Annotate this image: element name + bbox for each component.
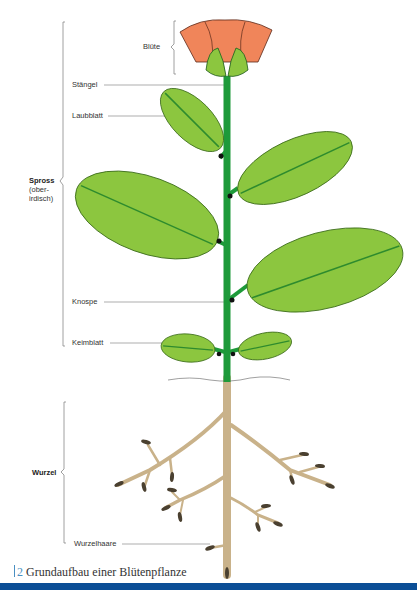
figure-title: Grundaufbau einer Blütenpflanze xyxy=(26,565,187,579)
caption-accent-bar xyxy=(14,565,15,577)
label-wurzel: Wurzel xyxy=(32,468,56,477)
leaf-lower-right xyxy=(238,213,412,328)
wurzel-bracket xyxy=(61,402,66,543)
flower xyxy=(180,20,272,77)
leaf-top-left xyxy=(150,78,235,163)
label-staengel: Stängel xyxy=(72,80,97,89)
keimblatt-right xyxy=(236,328,294,365)
plant-illustration xyxy=(0,0,417,590)
plant-diagram: Blüte Stängel Laubblatt Spross (ober- ir… xyxy=(0,0,417,590)
label-keimblatt: Keimblatt xyxy=(72,338,103,347)
figure-caption: 2 Grundaufbau einer Blütenpflanze xyxy=(14,565,187,580)
label-bluete: Blüte xyxy=(143,42,160,51)
label-wurzelhaare: Wurzelhaare xyxy=(74,539,116,548)
label-spross: Spross xyxy=(29,176,54,185)
spross-bracket xyxy=(60,22,65,346)
bluete-bracket xyxy=(171,21,176,74)
leaf-upper-right xyxy=(227,116,363,219)
leaf-large-left xyxy=(64,154,231,277)
label-laubblatt: Laubblatt xyxy=(72,111,103,120)
root-system xyxy=(118,378,330,575)
label-spross-sub-2: irdisch) xyxy=(29,195,53,204)
bottom-bar xyxy=(0,583,417,590)
label-knospe: Knospe xyxy=(72,297,97,306)
keimblatt-left xyxy=(160,332,216,365)
figure-number: 2 xyxy=(17,565,23,579)
